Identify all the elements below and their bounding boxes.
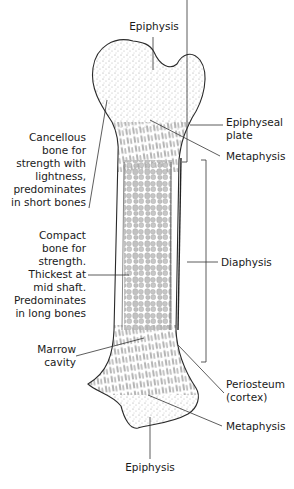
label-periosteum: Periosteum (cortex) (226, 378, 285, 404)
label-compact-bone: Compact bone for strength. Thickest at m… (2, 229, 86, 320)
label-epiphyseal-plate: Epiphyseal plate (226, 116, 283, 142)
label-metaphysis-top: Metaphysis (226, 150, 285, 163)
label-cancellous-bone: Cancellous bone for strength with lightn… (2, 131, 86, 209)
label-epiphysis-bottom: Epiphysis (124, 461, 176, 474)
label-epiphysis-top: Epiphysis (128, 20, 180, 33)
label-marrow-cavity: Marrow cavity (20, 343, 76, 369)
diaphysis-bracket (201, 160, 206, 362)
label-diaphysis: Diaphysis (221, 256, 272, 269)
label-metaphysis-bottom: Metaphysis (226, 420, 285, 433)
bone (80, 30, 220, 440)
